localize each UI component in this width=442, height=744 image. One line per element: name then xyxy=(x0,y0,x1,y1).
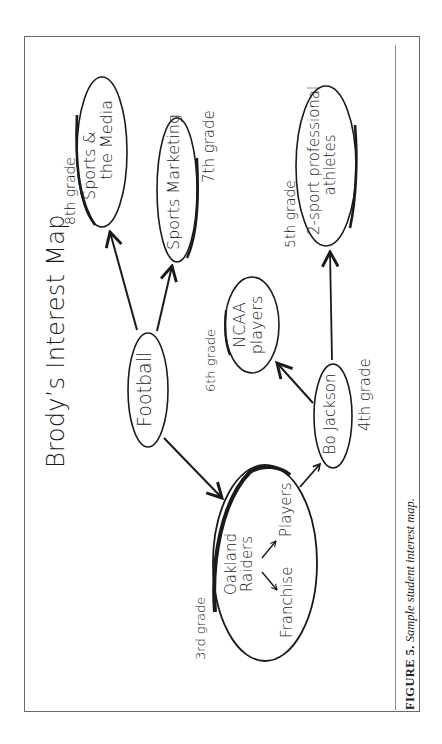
edge-bojackson-ncaa xyxy=(277,363,313,403)
edge-bojackson-twosport xyxy=(330,252,332,360)
marketing-label: Sports Marketing xyxy=(164,114,183,250)
edge-raiders-players xyxy=(262,541,276,558)
edge-raiders-franchise xyxy=(262,572,277,590)
grade-label-7th: 7th grade xyxy=(200,110,218,183)
ncaa-line2: players xyxy=(249,285,266,365)
node-label-raiders: Oakland Raiders xyxy=(224,524,256,604)
edge-raiders-bojackson xyxy=(300,464,320,487)
node-label-twosport: 2-sport professional athletes xyxy=(307,95,339,235)
football-label: Football xyxy=(133,352,155,427)
caption-text: Sample student interest map. xyxy=(403,498,417,642)
figure-caption: FIGURE 5. Sample student interest map. xyxy=(403,498,418,710)
grade-label-3rd: 3rd grade xyxy=(193,597,208,660)
raiders-line2: Raiders xyxy=(240,524,256,604)
edge-football-marketing xyxy=(157,266,172,331)
sub-label-franchise: Franchise xyxy=(278,567,296,638)
diagram-title: Brody’s Interest Map xyxy=(42,214,70,468)
grade-label-6th: 6th grade xyxy=(203,329,218,392)
sub-label-players: Players xyxy=(277,483,295,538)
grade-label-4th: 4th grade xyxy=(356,358,374,431)
node-label-media: Sports & the Media xyxy=(82,100,116,200)
grade-label-8th: 8th grade xyxy=(62,157,78,225)
node-label-bojackson: Bo Jackson xyxy=(323,372,339,456)
node-label-ncaa: NCAA players xyxy=(232,285,266,365)
node-label-football: Football xyxy=(135,353,155,427)
media-line2: the Media xyxy=(99,100,116,200)
edge-football-media xyxy=(110,232,137,330)
bojackson-label: Bo Jackson xyxy=(321,374,339,455)
node-label-marketing: Sports Marketing xyxy=(166,130,183,250)
edge-football-raiders xyxy=(164,438,222,498)
grade-label-5th: 5th grade xyxy=(282,180,298,248)
twosport-line2: athletes xyxy=(323,95,339,235)
caption-figure-label: FIGURE 5. xyxy=(403,645,417,710)
